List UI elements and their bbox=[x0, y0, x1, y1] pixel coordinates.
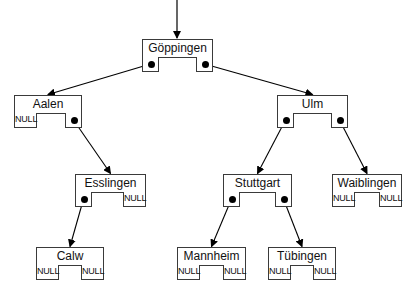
right-child-null: NULL bbox=[123, 192, 146, 207]
right-child-pointer bbox=[65, 113, 82, 128]
pointer-dot-icon bbox=[337, 117, 344, 124]
tree-node-aalen: AalenNULL bbox=[14, 95, 82, 128]
left-child-pointer bbox=[223, 192, 240, 207]
node-label: Waiblingen bbox=[332, 174, 402, 193]
right-child-pointer bbox=[196, 57, 213, 72]
tree-node-calw: CalwNULLNULL bbox=[36, 247, 104, 280]
edge-goeppingen-ulm bbox=[205, 64, 313, 95]
edge-ulm-stuttgart bbox=[258, 120, 286, 174]
node-label: Mannheim bbox=[177, 247, 246, 266]
right-child-null: NULL bbox=[81, 265, 104, 280]
tree-node-tuebingen: TübingenNULLNULL bbox=[268, 247, 336, 280]
tree-node-stuttgart: Stuttgart bbox=[223, 174, 292, 207]
left-child-pointer bbox=[75, 192, 92, 207]
edge-aalen-esslingen bbox=[74, 120, 111, 174]
right-child-null: NULL bbox=[313, 265, 336, 280]
left-child-pointer bbox=[142, 57, 159, 72]
pointer-dot-icon bbox=[202, 61, 209, 68]
node-label: Esslingen bbox=[75, 174, 146, 193]
left-child-null: NULL bbox=[36, 265, 59, 280]
edge-ulm-waiblingen bbox=[340, 120, 368, 174]
pointer-dot-icon bbox=[81, 196, 88, 203]
right-child-null: NULL bbox=[223, 265, 246, 280]
tree-node-waiblingen: WaiblingenNULLNULL bbox=[332, 174, 402, 207]
tree-node-goeppingen: Göppingen bbox=[142, 39, 213, 72]
node-label: Tübingen bbox=[268, 247, 336, 266]
node-label: Göppingen bbox=[142, 39, 213, 58]
right-child-null: NULL bbox=[379, 192, 402, 207]
node-label: Stuttgart bbox=[223, 174, 292, 193]
left-child-null: NULL bbox=[268, 265, 291, 280]
tree-node-ulm: Ulm bbox=[277, 95, 348, 128]
tree-diagram: GöppingenAalenNULLUlmEsslingenNULLStuttg… bbox=[0, 0, 409, 292]
pointer-dot-icon bbox=[229, 196, 236, 203]
right-child-pointer bbox=[275, 192, 292, 207]
right-child-pointer bbox=[331, 113, 348, 128]
left-child-null: NULL bbox=[14, 113, 37, 128]
pointer-dot-icon bbox=[281, 196, 288, 203]
left-child-null: NULL bbox=[332, 192, 355, 207]
node-label: Aalen bbox=[14, 95, 82, 114]
node-label: Ulm bbox=[277, 95, 348, 114]
edge-goeppingen-aalen bbox=[48, 64, 151, 95]
pointer-dot-icon bbox=[71, 117, 78, 124]
left-child-pointer bbox=[277, 113, 294, 128]
pointer-dot-icon bbox=[283, 117, 290, 124]
tree-node-esslingen: EsslingenNULL bbox=[75, 174, 146, 207]
node-label: Calw bbox=[36, 247, 104, 266]
pointer-dot-icon bbox=[148, 61, 155, 68]
left-child-null: NULL bbox=[177, 265, 200, 280]
tree-node-mannheim: MannheimNULLNULL bbox=[177, 247, 246, 280]
